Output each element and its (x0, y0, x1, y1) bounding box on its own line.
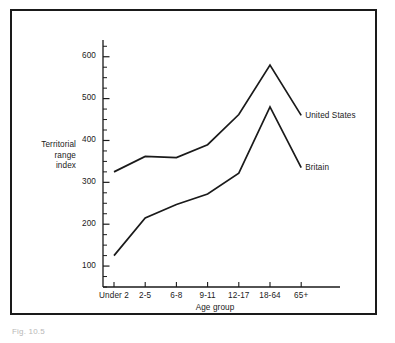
figure-caption: Fig. 10.5 (12, 327, 45, 336)
chart-plot-area (0, 0, 395, 343)
axes-group (103, 40, 340, 287)
data-line-britain (114, 107, 301, 256)
tick-marks-group (103, 46, 301, 287)
figure-root: Territorial range index Age group 100200… (0, 0, 395, 343)
data-line-united-states (114, 65, 301, 172)
data-lines-group (114, 65, 301, 255)
